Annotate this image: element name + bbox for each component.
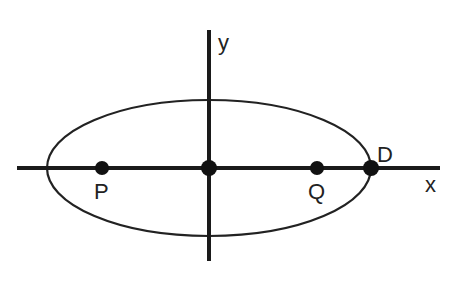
- x-axis-label: x: [425, 172, 436, 197]
- point-d-label: D: [377, 142, 393, 167]
- origin-point: [201, 160, 217, 176]
- point-p: [95, 161, 109, 175]
- y-axis-label: y: [218, 30, 229, 55]
- point-q: [310, 161, 324, 175]
- point-p-label: P: [94, 179, 109, 204]
- point-q-label: Q: [308, 179, 325, 204]
- ellipse-diagram: y x P Q D: [0, 0, 459, 282]
